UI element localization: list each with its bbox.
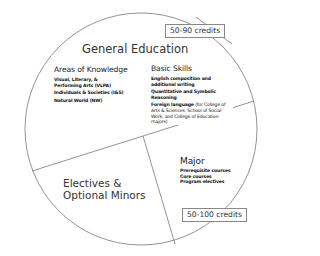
major-item-prerequisite: Prerequisite courses [180,168,230,174]
skill-item-english: English composition and additional writi… [151,76,213,87]
area-item-vlpa: Visual, Literary, & Performing Arts (VLP… [54,77,124,88]
general-education-credits-badge: 50-90 credits [165,24,225,38]
area-item-nw: Natural World (NW) [54,98,146,104]
electives-line-1: Electives & [63,177,146,189]
major-credits-badge: 50-100 credits [182,208,247,222]
major-section: Major Prerequisite courses Core courses … [180,156,230,185]
area-item-is: Individuals & Societies (I&S) [54,90,146,96]
skill-item-foreign-language: Foreign language (for College of Arts & … [151,102,231,124]
basic-skills: Basic Skills English composition and add… [151,64,233,125]
areas-of-knowledge-heading: Areas of Knowledge [54,65,146,74]
electives-label: Electives & Optional Minors [63,177,146,201]
general-education-title: General Education [82,42,188,56]
major-title: Major [180,156,230,166]
skill-item-quantitative: Quantitative and Symbolic Reasoning [151,89,217,100]
areas-of-knowledge: Areas of Knowledge Visual, Literary, & P… [54,65,146,103]
foreign-language-label: Foreign language [151,102,194,107]
major-item-program-electives: Program electives [180,179,230,185]
electives-line-2: Optional Minors [63,189,146,201]
basic-skills-heading: Basic Skills [151,64,233,73]
